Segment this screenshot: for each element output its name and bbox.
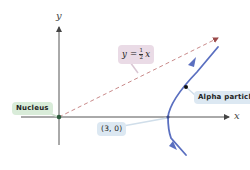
y-axis-label: y	[56, 11, 62, 21]
vertex-point-label: (3, 0)	[97, 122, 126, 136]
trajectory-arrow-upper-icon	[188, 57, 196, 67]
equation-lhs: y =	[122, 50, 137, 59]
nucleus-label: Nucleus	[12, 102, 53, 115]
fraction-denominator: 2	[139, 55, 143, 61]
point-leader	[123, 118, 167, 126]
diagram-canvas	[0, 0, 250, 170]
equation-rhs: x	[145, 50, 150, 59]
equation-fraction: 1 2	[139, 48, 143, 61]
x-axis-label: x	[234, 111, 240, 121]
fraction-numerator: 1	[139, 48, 143, 54]
alpha-particle-dot	[184, 85, 188, 89]
vertex-dot	[166, 115, 169, 118]
asymptote-equation-label: y = 1 2 x	[118, 45, 154, 64]
nucleus-dot	[57, 115, 62, 120]
alpha-particle-label: Alpha particle	[194, 91, 250, 104]
